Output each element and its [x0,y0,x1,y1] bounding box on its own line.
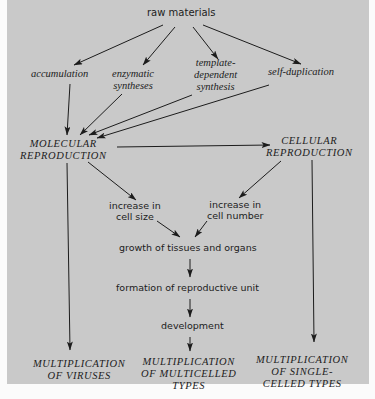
node-growth-tissues-organs: growth of tissues and organs [119,243,257,254]
node-singlecelled-line2: OF SINGLE- [256,366,348,378]
node-multicelled-line2: OF MULTICELLED [141,368,236,380]
node-molecular-line1: MOLECULAR [20,138,107,150]
node-enzymatic-line1: enzymatic [112,68,154,80]
arrow-cellular-to-cellnumber [239,161,281,198]
node-multiplication-single-celled: MULTIPLICATION OF SINGLE- CELLED TYPES [256,354,348,390]
node-self-duplication: self-duplication [268,66,334,78]
node-cellular-line1: CELLULAR [266,135,353,147]
arrow-template-to-molecular [89,95,192,135]
arrow-selfdup-to-molecular [97,85,269,138]
node-multiplication-multicelled: MULTIPLICATION OF MULTICELLED TYPES [141,356,236,392]
node-accumulation: accumulation [31,68,88,80]
node-molecular-line2: REPRODUCTION [20,150,107,162]
node-cellular-reproduction: CELLULAR REPRODUCTION [266,135,353,159]
node-multicelled-line1: MULTIPLICATION [141,356,236,368]
node-singlecelled-line1: MULTIPLICATION [256,354,348,366]
arrow-cellsize-to-growth [157,221,180,237]
node-molecular-reproduction: MOLECULAR REPRODUCTION [20,138,107,162]
arrow-connectors [0,0,375,399]
node-template-line2: dependent [194,69,237,81]
node-cellnumber-line2: cell number [207,211,263,222]
node-raw-materials: raw materials [147,7,216,19]
node-development: development [161,321,224,332]
node-formation-reproductive-unit: formation of reproductive unit [116,283,259,294]
arrow-molecular-to-viruses [67,163,70,350]
node-viruses-line1: MULTIPLICATION [33,358,125,370]
arrow-molecular-to-cellsize [88,162,136,200]
arrow-raw-to-enzymatic [143,27,175,65]
node-template-dependent-synthesis: template- dependent synthesis [194,57,237,93]
arrow-cellnumber-to-growth [195,221,207,237]
arrow-molecular-to-cellular [117,145,270,147]
node-template-line3: synthesis [194,81,237,93]
node-enzymatic-line2: syntheses [112,80,154,92]
node-multicelled-line3: TYPES [141,380,236,392]
arrow-accumulation-to-molecular [67,84,70,135]
node-viruses-line2: OF VIRUSES [33,370,125,382]
node-template-line1: template- [194,57,237,69]
arrow-raw-to-accumulation [74,25,163,65]
node-singlecelled-line3: CELLED TYPES [256,378,348,390]
arrow-cellular-to-singlecelled [312,160,314,342]
node-multiplication-viruses: MULTIPLICATION OF VIRUSES [33,358,125,382]
arrow-raw-to-template [193,27,218,59]
node-increase-cell-number: increase in cell number [207,200,263,222]
arrow-enzymatic-to-molecular [80,94,122,135]
node-cellsize-line2: cell size [109,212,161,223]
node-increase-cell-size: increase in cell size [109,201,161,223]
node-cellular-line2: REPRODUCTION [266,147,353,159]
node-enzymatic-syntheses: enzymatic syntheses [112,68,154,92]
